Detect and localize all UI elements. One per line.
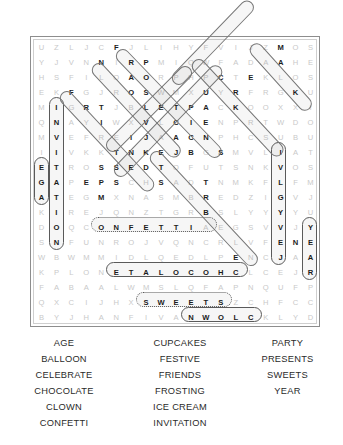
- grid-cell[interactable]: E: [109, 265, 124, 280]
- grid-cell[interactable]: C: [303, 295, 318, 310]
- grid-cell[interactable]: S: [258, 130, 273, 145]
- grid-cell[interactable]: U: [198, 85, 213, 100]
- grid-cell[interactable]: I: [183, 115, 198, 130]
- grid-cell[interactable]: C: [288, 295, 303, 310]
- grid-cell[interactable]: T: [154, 160, 169, 175]
- grid-cell[interactable]: C: [213, 100, 228, 115]
- grid-cell[interactable]: L: [154, 265, 169, 280]
- grid-cell[interactable]: Y: [243, 205, 258, 220]
- grid-cell[interactable]: N: [124, 145, 139, 160]
- grid-cell[interactable]: E: [183, 295, 198, 310]
- grid-cell[interactable]: V: [154, 310, 169, 325]
- grid-cell[interactable]: S: [139, 295, 154, 310]
- word-list-item[interactable]: CLOWN: [46, 400, 82, 416]
- grid-cell[interactable]: Q: [169, 235, 184, 250]
- grid-cell[interactable]: F: [64, 70, 79, 85]
- grid-cell[interactable]: V: [273, 220, 288, 235]
- grid-cell[interactable]: C: [64, 295, 79, 310]
- grid-cell[interactable]: K: [34, 265, 49, 280]
- grid-cell[interactable]: D: [303, 310, 318, 325]
- grid-cell[interactable]: E: [228, 250, 243, 265]
- grid-cell[interactable]: D: [288, 115, 303, 130]
- grid-cell[interactable]: F: [109, 40, 124, 55]
- grid-cell[interactable]: T: [49, 160, 64, 175]
- grid-cell[interactable]: C: [228, 265, 243, 280]
- grid-cell[interactable]: Z: [228, 295, 243, 310]
- grid-cell[interactable]: U: [198, 160, 213, 175]
- grid-cell[interactable]: G: [64, 100, 79, 115]
- grid-cell[interactable]: S: [303, 160, 318, 175]
- grid-cell[interactable]: X: [49, 295, 64, 310]
- grid-cell[interactable]: A: [139, 265, 154, 280]
- grid-cell[interactable]: F: [124, 220, 139, 235]
- grid-cell[interactable]: I: [79, 295, 94, 310]
- grid-cell[interactable]: H: [183, 70, 198, 85]
- grid-cell[interactable]: B: [124, 100, 139, 115]
- grid-cell[interactable]: T: [228, 70, 243, 85]
- grid-cell[interactable]: Y: [49, 310, 64, 325]
- grid-cell[interactable]: Q: [64, 220, 79, 235]
- grid-cell[interactable]: A: [288, 145, 303, 160]
- grid-cell[interactable]: V: [49, 130, 64, 145]
- grid-cell[interactable]: I: [34, 145, 49, 160]
- grid-cell[interactable]: E: [213, 220, 228, 235]
- grid-cell[interactable]: K: [288, 85, 303, 100]
- grid-cell[interactable]: F: [288, 280, 303, 295]
- word-list-item[interactable]: INVITATION: [153, 416, 206, 432]
- grid-cell[interactable]: U: [273, 280, 288, 295]
- grid-cell[interactable]: E: [64, 130, 79, 145]
- grid-cell[interactable]: B: [288, 130, 303, 145]
- grid-cell[interactable]: R: [198, 190, 213, 205]
- grid-cell[interactable]: T: [49, 190, 64, 205]
- grid-cell[interactable]: R: [258, 85, 273, 100]
- grid-cell[interactable]: E: [64, 190, 79, 205]
- grid-cell[interactable]: M: [303, 175, 318, 190]
- grid-cell[interactable]: P: [169, 70, 184, 85]
- grid-cell[interactable]: G: [79, 85, 94, 100]
- grid-cell[interactable]: G: [273, 85, 288, 100]
- grid-cell[interactable]: O: [79, 265, 94, 280]
- grid-cell[interactable]: A: [169, 130, 184, 145]
- grid-cell[interactable]: J: [273, 250, 288, 265]
- grid-cell[interactable]: K: [228, 100, 243, 115]
- word-list-item[interactable]: ICE CREAM: [153, 400, 207, 416]
- grid-cell[interactable]: K: [94, 145, 109, 160]
- grid-cell[interactable]: X: [183, 85, 198, 100]
- grid-cell[interactable]: L: [243, 265, 258, 280]
- grid-cell[interactable]: O: [243, 100, 258, 115]
- grid-cell[interactable]: C: [183, 265, 198, 280]
- grid-cell[interactable]: I: [169, 55, 184, 70]
- grid-cell[interactable]: S: [94, 160, 109, 175]
- grid-cell[interactable]: R: [109, 85, 124, 100]
- grid-cell[interactable]: L: [154, 115, 169, 130]
- grid-cell[interactable]: R: [303, 265, 318, 280]
- grid-cell[interactable]: K: [258, 160, 273, 175]
- grid-cell[interactable]: T: [154, 205, 169, 220]
- grid-cell[interactable]: E: [34, 160, 49, 175]
- grid-cell[interactable]: M: [228, 145, 243, 160]
- grid-cell[interactable]: K: [258, 70, 273, 85]
- grid-cell[interactable]: E: [198, 115, 213, 130]
- grid-cell[interactable]: R: [124, 55, 139, 70]
- grid-cell[interactable]: B: [49, 250, 64, 265]
- grid-cell[interactable]: L: [228, 205, 243, 220]
- grid-cell[interactable]: I: [183, 220, 198, 235]
- grid-cell[interactable]: L: [273, 310, 288, 325]
- grid-cell[interactable]: X: [124, 295, 139, 310]
- grid-cell[interactable]: K: [258, 310, 273, 325]
- grid-cell[interactable]: I: [109, 250, 124, 265]
- grid-cell[interactable]: S: [109, 175, 124, 190]
- grid-cell[interactable]: N: [79, 55, 94, 70]
- grid-cell[interactable]: I: [228, 40, 243, 55]
- grid-cell[interactable]: P: [228, 115, 243, 130]
- grid-cell[interactable]: Z: [243, 190, 258, 205]
- grid-cell[interactable]: G: [273, 190, 288, 205]
- grid-cell[interactable]: J: [64, 310, 79, 325]
- grid-cell[interactable]: I: [79, 70, 94, 85]
- grid-cell[interactable]: A: [198, 100, 213, 115]
- grid-cell[interactable]: V: [273, 160, 288, 175]
- grid-cell[interactable]: L: [64, 265, 79, 280]
- grid-cell[interactable]: L: [139, 40, 154, 55]
- grid-cell[interactable]: F: [198, 40, 213, 55]
- grid-cell[interactable]: A: [49, 280, 64, 295]
